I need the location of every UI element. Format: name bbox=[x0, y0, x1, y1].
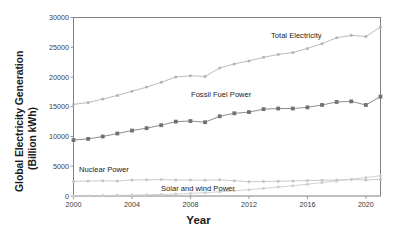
series-marker bbox=[247, 59, 250, 62]
series-marker bbox=[160, 81, 163, 84]
series-marker bbox=[101, 98, 104, 101]
series-marker bbox=[86, 137, 90, 141]
series-marker bbox=[247, 180, 250, 183]
series-marker bbox=[262, 180, 265, 183]
series-marker bbox=[291, 51, 294, 54]
series-marker bbox=[335, 100, 339, 104]
series-marker bbox=[379, 174, 382, 177]
data-series bbox=[72, 95, 383, 142]
series-marker bbox=[335, 36, 338, 39]
series-marker bbox=[364, 176, 367, 179]
series-marker bbox=[116, 194, 119, 197]
series-marker bbox=[379, 26, 382, 29]
series-marker bbox=[101, 194, 104, 197]
series-marker bbox=[233, 179, 236, 182]
series-marker bbox=[306, 105, 310, 109]
series-marker bbox=[204, 75, 207, 78]
series-marker bbox=[262, 107, 266, 111]
series-marker bbox=[174, 178, 177, 181]
series-marker bbox=[291, 107, 295, 111]
series-marker bbox=[145, 178, 148, 181]
series-marker bbox=[364, 35, 367, 38]
series-marker bbox=[232, 111, 236, 115]
series-marker bbox=[189, 74, 192, 77]
series-marker bbox=[145, 193, 148, 196]
series-marker bbox=[306, 47, 309, 50]
series-marker bbox=[350, 178, 353, 181]
series-marker bbox=[321, 181, 324, 184]
plot-area bbox=[0, 0, 397, 240]
series-label: Total Electricity bbox=[271, 31, 322, 40]
series-marker bbox=[116, 180, 119, 183]
series-marker bbox=[276, 107, 280, 111]
series-marker bbox=[174, 120, 178, 124]
series-label: Fossil Fuel Power bbox=[191, 90, 251, 99]
series-marker bbox=[72, 194, 75, 197]
series-marker bbox=[189, 179, 192, 182]
series-marker bbox=[218, 67, 221, 70]
series-marker bbox=[115, 132, 119, 136]
series-marker bbox=[335, 180, 338, 183]
series-marker bbox=[87, 180, 90, 183]
series-marker bbox=[306, 183, 309, 186]
series-marker bbox=[379, 178, 382, 181]
series-marker bbox=[262, 56, 265, 59]
series-marker bbox=[101, 179, 104, 182]
series-marker bbox=[218, 178, 221, 181]
series-marker bbox=[87, 101, 90, 104]
series-marker bbox=[159, 123, 163, 127]
series-marker bbox=[145, 126, 149, 130]
series-marker bbox=[306, 179, 309, 182]
series-marker bbox=[72, 103, 75, 106]
series-marker bbox=[350, 34, 353, 37]
series-marker bbox=[174, 76, 177, 79]
series-marker bbox=[204, 179, 207, 182]
series-marker bbox=[277, 186, 280, 189]
series-marker bbox=[160, 178, 163, 181]
series-label: Nuclear Power bbox=[79, 165, 129, 174]
series-marker bbox=[247, 188, 250, 191]
series-marker bbox=[130, 194, 133, 197]
series-marker bbox=[277, 53, 280, 56]
series-marker bbox=[72, 138, 76, 142]
series-marker bbox=[101, 135, 105, 139]
series-line bbox=[74, 97, 381, 140]
series-marker bbox=[321, 42, 324, 45]
series-marker bbox=[320, 103, 324, 107]
series-marker bbox=[364, 103, 368, 107]
series-marker bbox=[379, 95, 383, 99]
series-marker bbox=[349, 99, 353, 103]
series-marker bbox=[160, 193, 163, 196]
series-marker bbox=[130, 129, 134, 133]
series-label: Solar and wind Power bbox=[161, 184, 235, 193]
series-marker bbox=[218, 114, 222, 118]
series-marker bbox=[291, 179, 294, 182]
series-marker bbox=[262, 187, 265, 190]
series-marker bbox=[116, 94, 119, 97]
series-marker bbox=[247, 110, 251, 114]
series-marker bbox=[233, 62, 236, 65]
series-marker bbox=[130, 90, 133, 93]
series-marker bbox=[130, 178, 133, 181]
series-marker bbox=[277, 180, 280, 183]
series-marker bbox=[87, 194, 90, 197]
series-marker bbox=[291, 184, 294, 187]
series-marker bbox=[203, 120, 207, 124]
series-marker bbox=[145, 86, 148, 89]
series-marker bbox=[189, 119, 193, 123]
chart-figure: Global Electricity Generation (Billion k… bbox=[0, 0, 397, 240]
series-marker bbox=[72, 180, 75, 183]
